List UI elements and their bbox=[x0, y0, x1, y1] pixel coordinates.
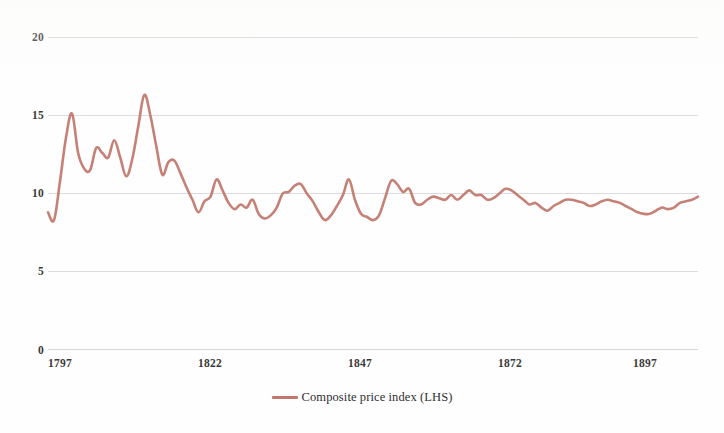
legend-label: Composite price index (LHS) bbox=[302, 390, 453, 405]
series-line-path bbox=[48, 95, 698, 222]
x-tick-label-1872: 1872 bbox=[498, 357, 522, 369]
x-tick-label-1822: 1822 bbox=[198, 357, 222, 369]
x-tick-label-1797: 1797 bbox=[48, 357, 72, 369]
chart-legend: Composite price index (LHS) bbox=[0, 390, 724, 405]
series-composite-price-index bbox=[48, 37, 698, 350]
x-tick-label-1847: 1847 bbox=[348, 357, 372, 369]
x-tick-label-1897: 1897 bbox=[633, 357, 657, 369]
y-tick-label-20: 20 bbox=[8, 31, 44, 43]
y-tick-label-10: 10 bbox=[8, 187, 44, 199]
x-axis: 1797 1822 1847 1872 1897 bbox=[0, 357, 724, 377]
chart-figure: 20 15 10 5 0 1797 1822 1847 1872 1897 Co… bbox=[0, 0, 724, 433]
plot-area bbox=[48, 37, 698, 350]
legend-line-swatch bbox=[272, 396, 298, 400]
y-tick-label-15: 15 bbox=[8, 109, 44, 121]
y-tick-label-0: 0 bbox=[8, 344, 44, 356]
y-tick-label-5: 5 bbox=[8, 265, 44, 277]
